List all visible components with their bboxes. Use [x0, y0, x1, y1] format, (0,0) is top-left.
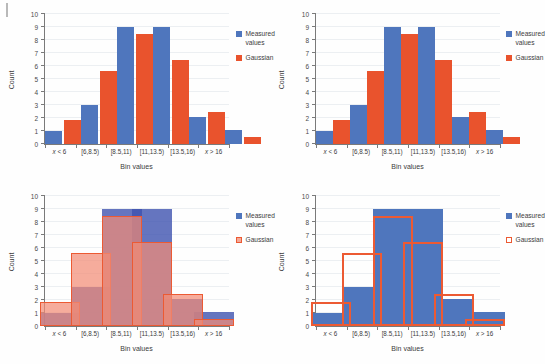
x-category-label: [6,8.5) — [75, 148, 106, 155]
bar-gaussian — [367, 71, 384, 144]
bar-group — [350, 14, 384, 144]
legend-label-measured: Measuredvalues — [516, 30, 545, 47]
y-tick-label: 2 — [34, 115, 38, 122]
legend-item-gaussian-tl: Gaussian — [236, 54, 275, 63]
x-category-label: x > 16 — [198, 330, 229, 337]
bars-br — [316, 196, 500, 326]
y-tick-label: 4 — [305, 89, 309, 96]
bar-measured — [350, 105, 367, 144]
y-tick-label: 10 — [302, 11, 309, 18]
bar-measured — [225, 130, 242, 144]
y-tick-label: 6 — [34, 63, 38, 70]
y-tick-label: 0 — [305, 323, 309, 330]
legend-swatch-measured-icon — [506, 31, 512, 37]
legend-swatch-gaussian-icon — [506, 237, 512, 243]
legend-bl: Measuredvalues Gaussian — [236, 212, 275, 252]
chart-panel-top-right: Count 012345678910 x < 6[6,8.5)[8.5,11)[… — [270, 0, 539, 182]
x-category-label: [6,8.5) — [346, 148, 377, 155]
y-tick-label: 4 — [34, 89, 38, 96]
bar-gaussian — [136, 34, 153, 144]
plot-area-tl: 012345678910 — [44, 14, 229, 145]
y-tick-label: 3 — [305, 102, 309, 109]
x-category-label: [13.5,16) — [438, 148, 469, 155]
x-category-label: [11,13.5) — [407, 148, 438, 155]
y-tick-label: 1 — [34, 128, 38, 135]
y-tick-label: 0 — [34, 141, 38, 148]
bar-gaussian — [100, 71, 117, 144]
bar-measured — [81, 105, 98, 144]
legend-item-measured-tr: Measuredvalues — [506, 30, 545, 47]
legend-item-measured-bl: Measuredvalues — [236, 212, 275, 229]
x-category-label: [8.5,11) — [106, 330, 137, 337]
bar-group — [189, 14, 225, 144]
bar-group — [153, 14, 189, 144]
y-tick-label: 9 — [34, 24, 38, 31]
x-category-label: [11,13.5) — [136, 148, 167, 155]
bars-tr — [316, 14, 500, 144]
y-tick-label: 2 — [305, 115, 309, 122]
bar-gaussian — [503, 137, 520, 144]
y-tick-label: 3 — [305, 284, 309, 291]
x-axis-title-br: Bin values — [315, 345, 500, 352]
y-tick-label: 1 — [305, 310, 309, 317]
bar-gaussian — [333, 120, 350, 144]
legend-item-gaussian-br: Gaussian — [506, 236, 545, 245]
y-tick-label: 6 — [305, 245, 309, 252]
x-tick — [229, 326, 230, 330]
y-tick-label: 2 — [34, 297, 38, 304]
bar-measured — [418, 27, 435, 144]
y-axis-title-tl: Count — [8, 71, 15, 90]
y-tick-label: 10 — [302, 193, 309, 200]
legend-swatch-measured-icon — [236, 213, 242, 219]
y-tick-label: 3 — [34, 102, 38, 109]
y-tick-label: 2 — [305, 297, 309, 304]
y-tick-label: 1 — [34, 310, 38, 317]
bar-gaussian — [208, 112, 225, 145]
x-categories-tl: x < 6[6,8.5)[8.5,11)[11,13.5)[13.5,16)x … — [44, 148, 229, 155]
legend-item-gaussian-tr: Gaussian — [506, 54, 545, 63]
x-category-label: [13.5,16) — [438, 330, 469, 337]
bars-tl — [45, 14, 229, 144]
bar-measured — [153, 27, 170, 144]
x-category-label: [8.5,11) — [377, 330, 408, 337]
x-categories-tr: x < 6[6,8.5)[8.5,11)[11,13.5)[13.5,16)x … — [315, 148, 500, 155]
x-category-label: x > 16 — [469, 148, 500, 155]
y-axis-title-bl: Count — [8, 253, 15, 272]
y-tick-label: 6 — [305, 63, 309, 70]
y-axis-title-tr: Count — [278, 71, 285, 90]
chart-panel-bottom-left: Count 012345678910 x < 6[6,8.5)[8.5,11)[… — [0, 182, 270, 364]
y-tick-label: 7 — [34, 232, 38, 239]
y-tick-label: 9 — [305, 24, 309, 31]
bar-measured — [486, 130, 503, 144]
y-tick-label: 0 — [305, 141, 309, 148]
bar-group — [45, 14, 81, 144]
x-category-label: [13.5,16) — [167, 148, 198, 155]
x-category-label: x < 6 — [315, 148, 346, 155]
y-tick-label: 5 — [305, 76, 309, 83]
x-category-label: [6,8.5) — [346, 330, 377, 337]
bar-group — [117, 14, 153, 144]
x-categories-br: x < 6[6,8.5)[8.5,11)[11,13.5)[13.5,16)x … — [315, 330, 500, 337]
legend-item-measured-br: Measuredvalues — [506, 212, 545, 229]
legend-item-measured-tl: Measuredvalues — [236, 30, 275, 47]
bar-gaussian — [435, 60, 452, 144]
bar-group — [418, 14, 452, 144]
legend-item-gaussian-bl: Gaussian — [236, 236, 275, 245]
y-tick-label: 9 — [305, 206, 309, 213]
chart-panel-bottom-right: Count 012345678910 x < 6[6,8.5)[8.5,11)[… — [270, 182, 539, 364]
legend-swatch-measured-icon — [506, 213, 512, 219]
plot-area-bl: 012345678910 — [44, 196, 229, 327]
legend-label-gaussian: Gaussian — [516, 54, 544, 63]
y-tick-label: 1 — [305, 128, 309, 135]
x-category-label: x < 6 — [315, 330, 346, 337]
y-tick-label: 8 — [305, 37, 309, 44]
bar-measured — [452, 117, 469, 144]
y-tick-label: 10 — [31, 11, 38, 18]
chart-panel-top-left: Count 012345678910 x < 6[6,8.5)[8.5,11)[… — [0, 0, 270, 182]
y-tick-label: 8 — [305, 219, 309, 226]
x-category-label: [8.5,11) — [377, 148, 408, 155]
x-category-label: x > 16 — [198, 148, 229, 155]
x-tick — [500, 144, 501, 148]
bar-group — [452, 14, 486, 144]
